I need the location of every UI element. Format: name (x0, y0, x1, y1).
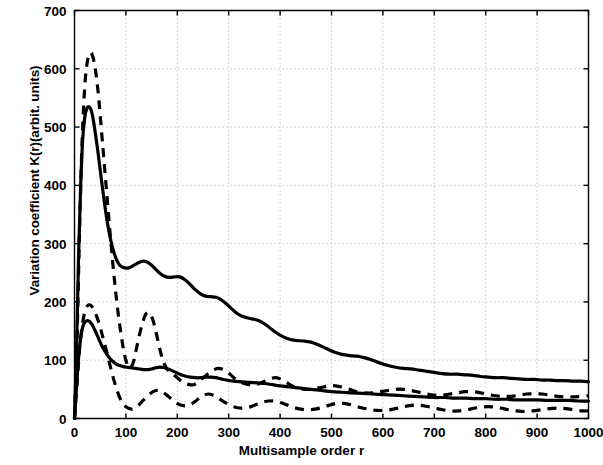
x-tick-label: 400 (269, 425, 292, 440)
x-tick-label: 1000 (573, 425, 603, 440)
x-tick-label: 900 (526, 425, 549, 440)
y-tick-label: 300 (44, 237, 67, 252)
y-tick-label: 100 (44, 353, 67, 368)
x-tick-label: 300 (217, 425, 240, 440)
y-tick-label: 600 (44, 62, 67, 77)
x-tick-label: 200 (166, 425, 189, 440)
x-tick-label: 0 (71, 425, 79, 440)
x-tick-label: 100 (115, 425, 138, 440)
x-tick-label: 800 (474, 425, 497, 440)
x-tick-label: 500 (320, 425, 343, 440)
y-tick-label: 400 (44, 178, 67, 193)
y-tick-label: 700 (44, 4, 67, 19)
y-tick-label: 0 (59, 412, 67, 427)
gridlines (75, 11, 589, 419)
x-tick-label: 600 (372, 425, 395, 440)
x-tick-label: 700 (423, 425, 446, 440)
curve-lower-dashed (75, 305, 589, 419)
chart-figure: Variation coefficient K(r)(arbit. units)… (0, 0, 603, 465)
y-tick-label: 200 (44, 295, 67, 310)
y-tick-label: 500 (44, 120, 67, 135)
x-axis-title: Multisample order r (0, 443, 603, 458)
plot-area: 0100200300400500600700800900100001002003… (0, 0, 603, 465)
